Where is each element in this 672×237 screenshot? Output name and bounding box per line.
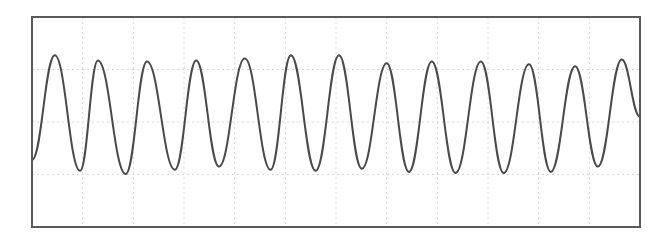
waveform-plot <box>0 0 672 237</box>
grid-lines <box>32 17 640 227</box>
waveform-chart <box>0 0 672 237</box>
